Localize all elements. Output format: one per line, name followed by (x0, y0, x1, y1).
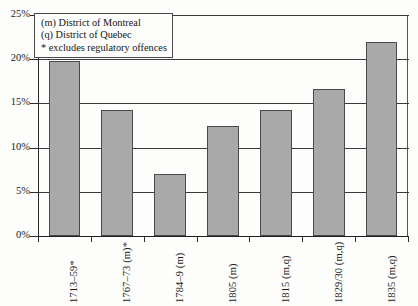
legend-box: (m) District of Montreal (q) District of… (34, 13, 173, 58)
x-axis-tick (408, 236, 409, 242)
y-axis-tick-label: 15% (0, 97, 30, 108)
y-axis-tick-label: 25% (0, 9, 30, 20)
y-axis-tick-label: 20% (0, 53, 30, 64)
bar (101, 110, 133, 236)
y-axis-tick (30, 192, 38, 193)
legend-line-quebec: (q) District of Quebec (41, 29, 167, 41)
y-axis-tick (30, 236, 38, 237)
bar (207, 126, 239, 236)
x-axis-tick (144, 236, 145, 242)
bar-chart: 0%5%10%15%20%25% 1713–59*1767–73 (m)*178… (0, 0, 418, 306)
y-axis-tick-label: 5% (0, 186, 30, 197)
bar (260, 110, 292, 236)
y-axis-tick (30, 103, 38, 104)
x-axis-label-text: 1767–73 (m)* (121, 242, 132, 303)
x-axis-labels: 1713–59*1767–73 (m)*1784–9 (m)1805 (m)18… (38, 243, 408, 306)
y-axis-tick (30, 59, 38, 60)
legend-line-montreal: (m) District of Montreal (41, 17, 167, 29)
x-axis-tick (302, 236, 303, 242)
y-axis-tick (30, 148, 38, 149)
x-axis-label-text: 1829/30 (m,q) (333, 242, 344, 303)
bar (366, 42, 398, 236)
y-axis-tick-label: 10% (0, 142, 30, 153)
x-axis-label-text: 1784–9 (m) (174, 253, 185, 303)
x-axis-line (38, 236, 409, 237)
x-axis-label-text: 1805 (m) (227, 263, 238, 303)
legend-line-footnote: * excludes regulatory offences (41, 42, 167, 54)
bar (49, 61, 81, 236)
x-axis-tick (249, 236, 250, 242)
x-axis-label-text: 1713–59* (68, 260, 79, 303)
x-axis-label-text: 1815 (m,q) (280, 255, 291, 303)
x-axis-tick (197, 236, 198, 242)
bar (154, 174, 186, 236)
x-axis-label-text: 1835 (m,q) (386, 255, 397, 303)
x-axis-tick (355, 236, 356, 242)
x-axis-tick (38, 236, 39, 242)
y-axis-tick-label: 0% (0, 230, 30, 241)
bar (313, 89, 345, 236)
x-axis-tick (91, 236, 92, 242)
